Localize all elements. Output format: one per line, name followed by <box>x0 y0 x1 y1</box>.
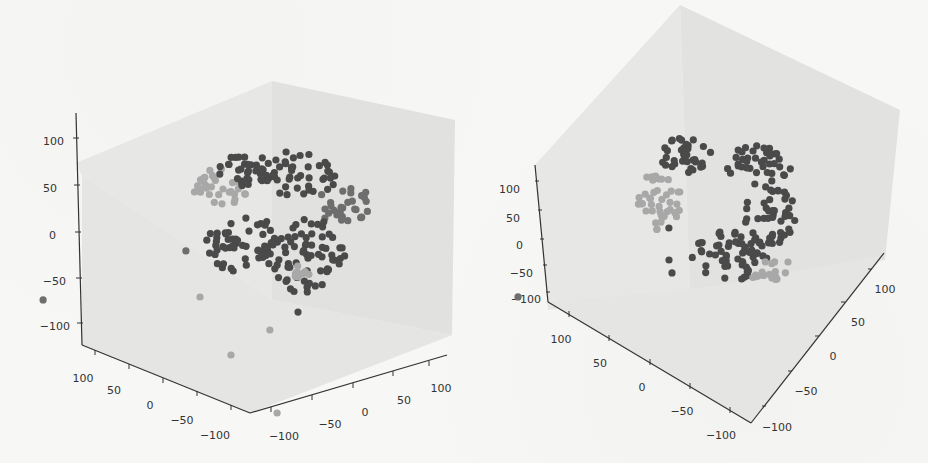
scatter-point <box>222 245 229 252</box>
scatter-point <box>769 207 776 214</box>
scatter-point <box>227 351 234 358</box>
scatter-point <box>265 160 272 167</box>
scatter-point <box>257 176 264 183</box>
scatter-point <box>306 174 313 181</box>
scatter-point <box>752 155 759 162</box>
scatter-point <box>283 191 290 198</box>
scatter-point <box>718 248 725 255</box>
scatter-point <box>743 205 750 212</box>
right-x-tick-label: −50 <box>670 405 693 418</box>
scatter-point <box>266 326 273 333</box>
scatter-point <box>738 275 745 282</box>
left-3d-scatter-plot: 100 50 0 −50 −100 100 50 0 −50 −100 −100… <box>40 81 456 443</box>
right-back-pane-right <box>680 5 900 290</box>
scatter-point <box>742 219 749 226</box>
scatter-point <box>291 233 298 240</box>
scatter-point <box>758 158 765 165</box>
scatter-point <box>321 174 328 181</box>
scatter-point <box>771 258 778 265</box>
scatter-point <box>243 175 250 182</box>
left-z-tick-label: 0 <box>49 229 56 242</box>
scatter-point <box>206 167 213 174</box>
right-x-tick-label: 50 <box>593 357 607 370</box>
scatter-point <box>327 199 334 206</box>
scatter-point <box>267 227 274 234</box>
scatter-point <box>216 171 223 178</box>
scatter-point <box>270 171 277 178</box>
scatter-point <box>276 190 283 197</box>
left-z-axis <box>76 113 82 345</box>
scatter-point <box>357 214 364 221</box>
left-z-tick-label: 50 <box>43 182 57 195</box>
scatter-point <box>254 221 261 228</box>
scatter-point <box>723 257 730 264</box>
scatter-point <box>698 248 705 255</box>
scatter-point <box>656 208 663 215</box>
scatter-point <box>226 189 233 196</box>
scatter-point <box>283 148 290 155</box>
scatter-point <box>732 238 739 245</box>
scatter-point <box>324 186 331 193</box>
scatter-point <box>702 262 709 269</box>
scatter-point <box>231 196 238 203</box>
scatter-point <box>220 260 227 267</box>
scatter-point <box>364 208 371 215</box>
scatter-point <box>781 172 788 179</box>
left-x-tick-label: 100 <box>73 372 94 385</box>
scatter-point <box>259 231 266 238</box>
scatter-point <box>290 154 297 161</box>
figure: 100 50 0 −50 −100 100 50 0 −50 −100 −100… <box>0 0 928 463</box>
scatter-point <box>201 174 208 181</box>
right-z-tick-label: 0 <box>516 239 523 252</box>
scatter-point <box>322 245 329 252</box>
scatter-point <box>665 224 672 231</box>
scatter-point <box>683 141 690 148</box>
scatter-point <box>268 239 275 246</box>
scatter-point <box>196 293 203 300</box>
scatter-point <box>352 206 359 213</box>
scatter-point <box>319 281 326 288</box>
scatter-point <box>235 154 242 161</box>
scatter-point <box>321 205 328 212</box>
scatter-point <box>229 235 236 242</box>
right-3d-scatter-plot: 100 50 0 −50 −100 100 50 0 −50 −100 −100… <box>499 5 900 442</box>
scatter-point <box>215 191 222 198</box>
scatter-point <box>318 191 325 198</box>
scatter-point <box>655 175 662 182</box>
scatter-point <box>242 215 249 222</box>
scatter-point <box>217 163 224 170</box>
scatter-point <box>319 223 326 230</box>
scatter-point <box>784 258 791 265</box>
right-z-tick-label: 100 <box>499 183 520 196</box>
scatter-point <box>649 207 656 214</box>
scatter-point <box>294 174 301 181</box>
scatter-point <box>310 188 317 195</box>
scatter-point <box>738 163 745 170</box>
scatter-point <box>781 189 788 196</box>
scatter-point <box>749 274 756 281</box>
right-y-tick-label: 0 <box>830 350 837 363</box>
scatter-point <box>758 242 765 249</box>
scatter-point <box>668 188 675 195</box>
scatter-point <box>767 238 774 245</box>
scatter-point <box>283 278 290 285</box>
scatter-point <box>673 201 680 208</box>
scatter-point <box>668 137 675 144</box>
scatter-point <box>347 185 354 192</box>
scatter-point <box>724 165 731 172</box>
scatter-point <box>690 136 697 143</box>
left-y-tick-label: 50 <box>397 394 411 407</box>
scatter-point <box>214 230 221 237</box>
scatter-point <box>225 161 232 168</box>
scatter-point <box>198 185 205 192</box>
scatter-point <box>642 207 649 214</box>
scatter-point <box>654 187 661 194</box>
scatter-point <box>676 188 683 195</box>
scatter-point <box>766 150 773 157</box>
scatter-point <box>766 196 773 203</box>
scatter-point <box>666 199 673 206</box>
scatter-point <box>775 187 782 194</box>
scatter-point <box>286 264 293 271</box>
scatter-point <box>262 222 269 229</box>
left-x-tick-label: 50 <box>107 384 121 397</box>
